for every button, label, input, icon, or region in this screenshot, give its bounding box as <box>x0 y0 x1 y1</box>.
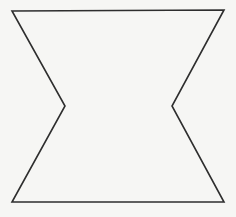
diagram-canvas <box>0 0 236 217</box>
background <box>0 0 236 217</box>
